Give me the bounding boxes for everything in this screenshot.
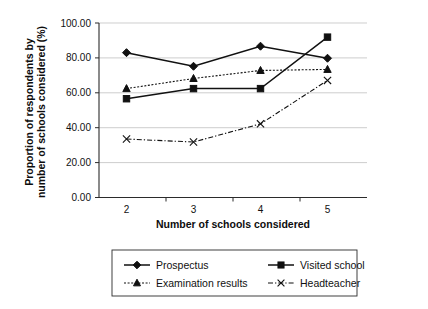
legend-label: Examination results (156, 277, 248, 289)
y-tick-label: 0.00 (72, 192, 92, 203)
y-tick-label: 60.00 (66, 87, 91, 98)
x-tick-label: 5 (325, 204, 331, 215)
x-tick-label: 2 (124, 204, 130, 215)
chart-container: 0.0020.0040.0060.0080.00100.00 2345 Prop… (0, 0, 428, 309)
legend-label: Visited school (300, 259, 365, 271)
x-axis-ticks: 2345 (124, 198, 331, 215)
line-chart: 0.0020.0040.0060.0080.00100.00 2345 Prop… (0, 0, 428, 309)
marker-square (123, 96, 129, 102)
legend-border (112, 250, 357, 296)
marker-square (190, 85, 196, 91)
plot-area-background (99, 23, 367, 198)
x-tick-label: 3 (191, 204, 197, 215)
x-tick-label: 4 (258, 204, 264, 215)
marker-square (257, 85, 263, 91)
chart-legend: ProspectusVisited schoolExamination resu… (112, 250, 365, 296)
y-tick-label: 20.00 (66, 157, 91, 168)
y-axis-title-line1: Proportion of respondents by (23, 38, 35, 186)
legend-label: Headteacher (300, 277, 361, 289)
y-axis-title: Proportion of respondents by number of s… (23, 26, 47, 198)
x-axis-title: Number of schools considered (156, 218, 310, 230)
marker-square (278, 262, 284, 268)
y-axis-ticks: 0.0020.0040.0060.0080.00100.00 (60, 18, 99, 204)
y-tick-label: 80.00 (66, 52, 91, 63)
legend-label: Prospectus (156, 259, 209, 271)
y-tick-label: 40.00 (66, 122, 91, 133)
y-tick-label: 100.00 (60, 18, 91, 29)
y-axis-title-line2: number of schools considered (%) (35, 26, 47, 198)
marker-square (324, 34, 330, 40)
